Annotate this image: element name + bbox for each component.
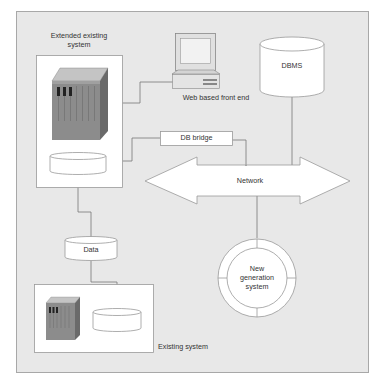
existing-server-icon — [46, 297, 80, 340]
extended-existing-system-label: Extended existing system — [34, 31, 124, 49]
existing-system-database-icon — [93, 309, 141, 332]
new-generation-system-label-line2: generation — [227, 273, 287, 282]
new-generation-system-label-line1: New — [227, 264, 287, 273]
architecture-diagram — [0, 0, 381, 388]
extended-existing-system-label-line1: Extended existing — [34, 31, 124, 40]
extended-existing-system-label-line2: system — [34, 40, 124, 49]
data-label: Data — [71, 245, 111, 254]
network-label: Network — [220, 176, 280, 185]
new-generation-system-label-line3: system — [227, 282, 287, 291]
web-front-end-label: Web based front end — [166, 93, 266, 102]
existing-system-label: Existing system — [158, 342, 208, 351]
mainframe-server-icon — [52, 68, 108, 140]
web-front-end-computer-icon — [172, 34, 220, 89]
db-bridge-label: DB bridge — [160, 133, 233, 142]
extended-system-database-icon — [50, 153, 106, 175]
dbms-label: DBMS — [272, 61, 312, 70]
new-generation-system-label: New generation system — [227, 264, 287, 291]
